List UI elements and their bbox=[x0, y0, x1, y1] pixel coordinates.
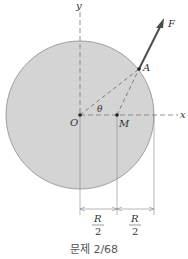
dim-right-numerator: R bbox=[130, 213, 139, 224]
y-axis-label: y bbox=[75, 0, 82, 11]
dim-right-denominator: 2 bbox=[132, 226, 138, 237]
dimension-left bbox=[80, 207, 117, 211]
origin-label: O bbox=[70, 117, 78, 128]
x-axis-label: x bbox=[180, 109, 186, 120]
point-o-dot bbox=[78, 113, 82, 117]
force-label: F bbox=[167, 18, 176, 29]
dimension-right bbox=[117, 207, 154, 211]
dim-left-numerator: R bbox=[93, 213, 102, 224]
dim-left-denominator: 2 bbox=[95, 226, 101, 237]
point-a-dot bbox=[137, 67, 141, 71]
point-m-label: M bbox=[118, 118, 130, 129]
disk-diagram: y x O M A F θ R 2 R 2 bbox=[0, 0, 188, 259]
point-a-label: A bbox=[142, 62, 150, 73]
angle-label: θ bbox=[97, 104, 103, 114]
figure-caption: 문제 2/68 bbox=[0, 240, 188, 256]
force-arrowhead bbox=[156, 18, 164, 28]
point-m-dot bbox=[115, 113, 119, 117]
